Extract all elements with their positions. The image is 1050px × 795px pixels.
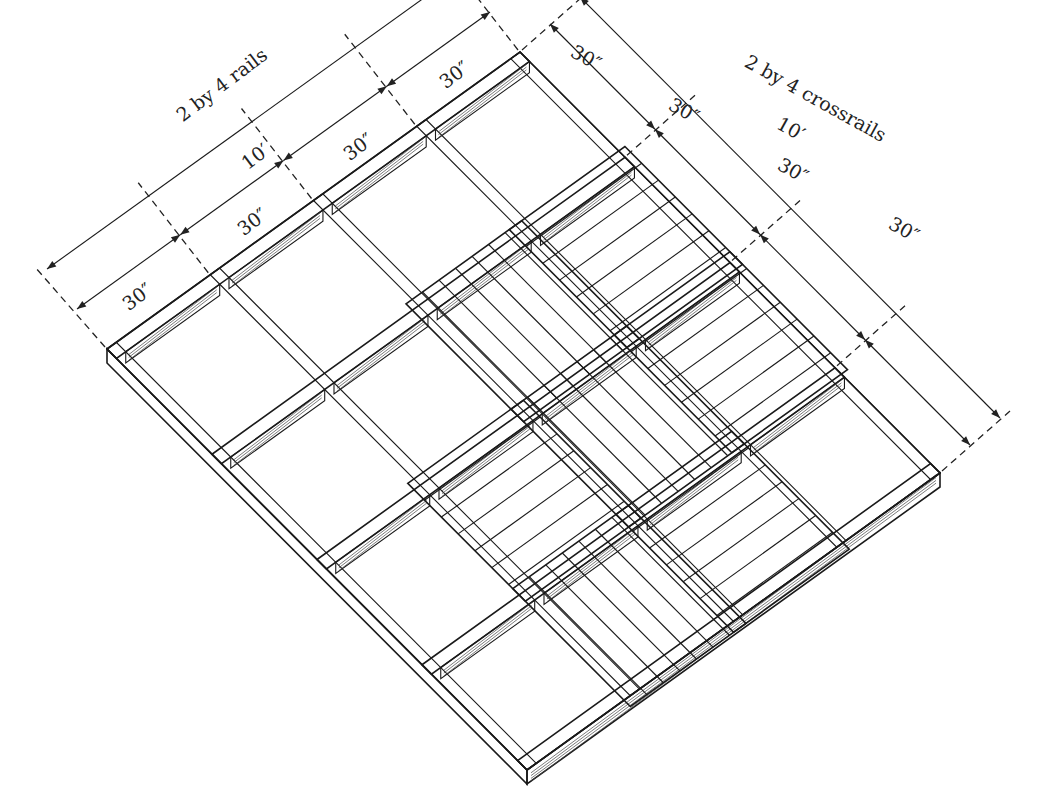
arrowhead: [481, 12, 490, 20]
deck-board-seam: [577, 362, 695, 480]
deck-board-seam: [595, 529, 713, 647]
wood-grain: [547, 529, 635, 597]
wood-grain: [440, 249, 528, 317]
arrowhead: [47, 261, 56, 269]
deck-board-seam: [439, 280, 557, 398]
wood-grain: [547, 534, 635, 602]
extension-line: [837, 306, 905, 366]
wood-grain: [234, 392, 322, 460]
frame-right-face: [527, 473, 940, 784]
deck-board-seam: [456, 268, 574, 386]
arrowhead: [284, 152, 293, 160]
deck-board-seam: [489, 244, 607, 362]
deck-board-seam: [612, 517, 730, 635]
arrowhead: [377, 86, 386, 94]
arrowhead: [180, 227, 189, 235]
deck-board-seam: [610, 338, 728, 456]
deck-board-seam: [472, 256, 590, 374]
wood-grain: [444, 608, 532, 676]
deck-board-seam: [423, 292, 541, 410]
wood-grain: [339, 498, 427, 566]
deck-drawing: [0, 0, 1050, 795]
deck-frame-diagram: 2 by 4 rails 2 by 4 crossrails 10′ 10′ 3…: [0, 0, 1050, 795]
wood-grain: [440, 244, 528, 312]
deck-board-seam: [544, 385, 662, 503]
wood-grain: [531, 478, 936, 776]
wood-grain: [337, 324, 425, 392]
extension-line: [732, 201, 800, 261]
wood-grain: [444, 603, 532, 671]
deck-board-seam: [562, 553, 680, 671]
deck-board-seam: [529, 577, 647, 695]
deck-board-seam: [561, 374, 679, 492]
deck-board-seam: [528, 397, 646, 515]
deck-board-seam: [579, 541, 697, 659]
dimension-line: [180, 161, 283, 235]
extension-line: [35, 267, 105, 347]
wood-grain: [545, 349, 633, 417]
arrowhead: [171, 235, 180, 243]
deck-board-seam: [505, 233, 623, 351]
wood-grain: [234, 398, 322, 466]
arrowhead: [274, 161, 283, 169]
wood-grain: [337, 318, 425, 386]
frame-left-face: [107, 349, 527, 784]
wood-grain: [339, 503, 427, 571]
arrowhead: [77, 301, 86, 309]
deck-board-seam: [546, 565, 664, 683]
wood-grain: [753, 380, 841, 448]
arrowhead: [387, 78, 396, 86]
wood-grain: [753, 386, 841, 454]
extension-line: [448, 0, 518, 50]
deck-board-seam: [594, 350, 712, 468]
wood-grain: [545, 355, 633, 423]
extension-line: [942, 411, 1010, 471]
